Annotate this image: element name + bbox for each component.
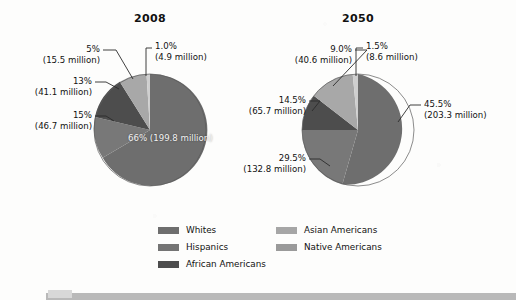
legend-label-african-americans: African Americans: [186, 259, 266, 269]
legend: Whites Hispanics African Americans Asian…: [158, 222, 398, 270]
pie-2008-african-abs: (41.1 million): [2, 87, 92, 98]
legend-item-asian-americans[interactable]: Asian Americans: [276, 222, 382, 238]
pie-2008-hispanics-pct: 15%: [2, 110, 92, 121]
legend-swatch-african-americans: [158, 261, 179, 268]
legend-label-native-americans: Native Americans: [304, 242, 382, 252]
legend-column-right: Asian Americans Native Americans: [276, 222, 382, 256]
pie-2008-native-abs: (4.9 million): [155, 52, 235, 63]
legend-swatch-asian-americans: [276, 227, 297, 234]
pie-2050-native-abs: (8.6 million): [366, 52, 450, 63]
legend-label-whites: Whites: [186, 225, 216, 235]
pie-2050-callout-native: 1.5% (8.6 million): [366, 41, 450, 63]
legend-item-hispanics[interactable]: Hispanics: [158, 239, 266, 255]
pie-2008-callout-native: 1.0% (4.9 million): [155, 41, 235, 63]
footer-decoration-bar: [0, 290, 516, 300]
pie-2050-asian-pct: 9.0%: [262, 44, 352, 55]
pie-2050-hispanics-pct: 29.5%: [222, 153, 306, 164]
legend-column-left: Whites Hispanics African Americans: [158, 222, 266, 273]
pie-2050-callout-hispanics: 29.5% (132.8 million): [222, 153, 306, 175]
pie-2008-callout-hispanics: 15% (46.7 million): [2, 110, 92, 132]
legend-label-asian-americans: Asian Americans: [304, 225, 377, 235]
legend-item-african-americans[interactable]: African Americans: [158, 256, 266, 272]
pie-2050-callout-asian: 9.0% (40.6 million): [262, 44, 352, 66]
legend-item-whites[interactable]: Whites: [158, 222, 266, 238]
pie-2050-whites-pct: 45.5%: [424, 99, 516, 110]
pie-2008-callout-african: 13% (41.1 million): [2, 76, 92, 98]
pie-2008-svg: [92, 72, 208, 188]
pie-2008-african-pct: 13%: [2, 76, 92, 87]
pie-2008-callout-asian: 5% (15.5 million): [8, 44, 100, 66]
pie-2008-native-pct: 1.0%: [155, 41, 235, 52]
pie-2008-whites-pct: 66%: [128, 133, 147, 143]
pie-2050-whites-abs: (203.3 million): [424, 110, 516, 121]
legend-label-hispanics: Hispanics: [186, 242, 228, 252]
legend-swatch-whites: [158, 227, 179, 234]
pie-2050-asian-abs: (40.6 million): [262, 55, 352, 66]
pie-2008: [92, 72, 208, 188]
pie-2050-hispanics-abs: (132.8 million): [222, 164, 306, 175]
footer-bar-fill: [46, 293, 516, 300]
pie-2008-label-whites: 66% (199.8 million): [128, 133, 204, 144]
chart-title-2008: 2008: [110, 12, 190, 25]
pie-2008-asian-pct: 5%: [8, 44, 100, 55]
chart-title-2050: 2050: [318, 12, 398, 25]
legend-swatch-native-americans: [276, 244, 297, 251]
pie-chart-figure: 2008 2050 66% (199.8 million) 5% (15.5 m…: [0, 0, 516, 300]
legend-swatch-hispanics: [158, 244, 179, 251]
footer-bar-tab-angle: [48, 290, 70, 298]
legend-item-native-americans[interactable]: Native Americans: [276, 239, 382, 255]
pie-2008-hispanics-abs: (46.7 million): [2, 121, 92, 132]
pie-2008-whites-abs: (199.8 million): [150, 133, 213, 143]
pie-2050-native-pct: 1.5%: [366, 41, 450, 52]
pie-2050-callout-whites: 45.5% (203.3 million): [424, 99, 516, 121]
pie-2050-african-abs: (65.7 million): [222, 106, 306, 117]
pie-2050: [300, 72, 416, 188]
pie-2050-callout-african: 14.5% (65.7 million): [222, 95, 306, 117]
pie-2008-asian-abs: (15.5 million): [8, 55, 100, 66]
pie-2050-svg: [300, 72, 416, 188]
pie-2050-african-pct: 14.5%: [222, 95, 306, 106]
